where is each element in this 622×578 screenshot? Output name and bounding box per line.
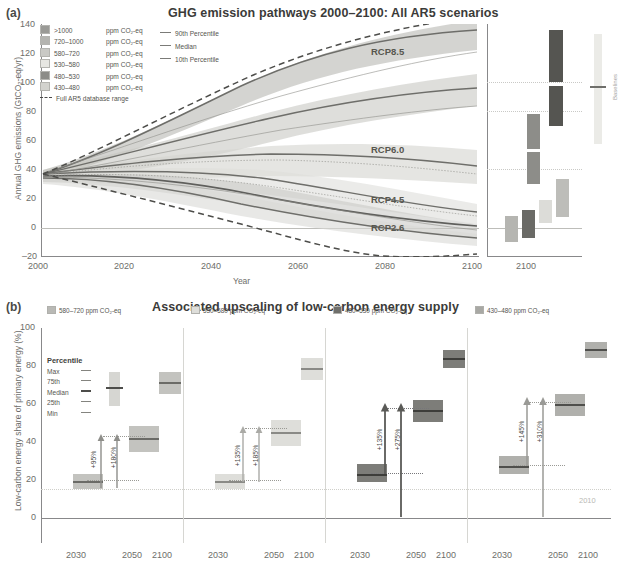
panel-b: (b) Associated upscaling of low-carbon e… [0,296,622,578]
x-tick: 2050 [264,550,284,560]
y-tick: 80 [26,106,36,116]
percentile-legend-title: Percentile [47,356,139,365]
y-tick: 140 [20,19,35,29]
inset-bar-720-1000-lower [527,152,540,184]
rcp-label-4-5: RCP4.5 [371,194,404,205]
swatch-icon [40,36,50,45]
y-tick: 80 [26,360,36,370]
legend-item: 75th [47,378,139,388]
subpanel-label-text: 530–580 ppm CO₂-eq [203,307,265,314]
baselines-median-marker [590,86,606,88]
x-tick: 2100 [436,550,456,560]
panel-b-tag: (b) [6,300,21,314]
legend-label: 25th [47,399,81,406]
y-tick: 40 [26,164,36,174]
legend-item: Median [47,389,139,399]
subpanel-label-text: 580–720 ppm CO₂-eq [59,307,121,314]
legend-item: 10th Percentile [160,56,280,69]
x-tick: 2030 [66,550,86,560]
panel-a-2100-inset: 2100 [487,24,582,257]
legend-percentile-label: Median [175,43,197,50]
legend-percentile-label: 10th Percentile [175,56,219,63]
pct-2050-4: +310% [536,421,543,442]
rcp-label-8-5: RCP8.5 [371,46,404,57]
x-tick: 2030 [208,550,228,560]
x-tick: 2050 [406,550,426,560]
y-tick: –20 [22,251,37,261]
legend-item: Median [160,43,280,56]
rcp-label-2-6: RCP2.6 [371,222,404,233]
x-tick: 2060 [288,261,308,271]
panel-b-percentile-legend: Percentile Max 75th Median 25th Min [47,356,139,430]
panel-a-percentile-legend: 90th Percentile Median 10th Percentile [160,30,280,80]
baselines-bar [594,34,602,144]
legend-range: 530–580 [54,61,106,68]
line-icon [160,45,171,46]
line-icon [160,32,171,33]
legend-unit: ppm CO₂-eq [106,50,143,57]
x-tick: 2040 [201,261,221,271]
panel-a-x-axis-label: Year [233,276,250,286]
rcp-label-6-0: RCP6.0 [371,144,404,155]
legend-unit: ppm CO₂-eq [106,27,143,34]
baseline-2010-label: 2010 [579,496,596,505]
swatch-icon [40,48,50,57]
line-icon [81,412,91,413]
x-tick: 2080 [375,261,395,271]
y-tick: 20 [26,193,36,203]
inset-bar-720-1000 [527,114,540,149]
swatch-icon [191,306,200,314]
swatch-icon [40,71,50,80]
x-tick: 2030 [350,550,370,560]
legend-database-label: Full AR5 database range [56,95,129,102]
panel-a-title: GHG emission pathways 2000–2100: All AR5… [168,6,499,20]
swatch-icon [333,306,342,314]
y-tick: 0 [31,222,36,232]
legend-label: Min [47,410,81,417]
bar-2100-median [585,349,607,351]
y-tick: 100 [20,322,35,332]
legend-range: 480–530 [54,73,106,80]
y-tick: 40 [26,436,36,446]
subpanel-label-530-580: 530–580 ppm CO₂-eq [191,306,265,314]
inset-y-axis [487,24,488,257]
swatch-icon [40,82,50,91]
line-icon [81,370,91,371]
x-tick: 2050 [548,550,568,560]
legend-item: Max [47,368,139,378]
legend-range: >1000 [54,27,106,34]
swatch-icon [475,306,484,314]
legend-range: 430–480 [54,84,106,91]
legend-range: 580–720 [54,50,106,57]
line-icon [81,380,91,381]
panel-a: (a) GHG emission pathways 2000–2100: All… [0,0,622,292]
pct-2030-4: +145% [518,421,525,442]
x-tick: 2100 [294,550,314,560]
line-icon [81,401,91,402]
increase-arrows-4 [521,392,561,520]
legend-unit: ppm CO₂-eq [106,38,143,45]
y-tick: 0 [31,512,36,522]
subpanel-label-text: 480–530 ppm CO₂-eq [345,307,407,314]
swatch-icon [40,25,50,34]
legend-median-marker [106,387,123,389]
pct-2030-2: +135% [234,445,241,466]
legend-label: Median [47,389,81,396]
x-tick: 2100 [578,550,598,560]
line-icon [160,58,171,59]
swatch-icon [40,59,50,68]
x-tick: 2030 [492,550,512,560]
legend-item: 90th Percentile [160,30,280,43]
x-tick: 2000 [28,261,48,271]
legend-range-box [109,372,120,406]
pct-2030-1: +95% [90,451,97,469]
legend-range: 720–1000 [54,38,106,45]
x-tick: 2100 [462,261,482,271]
panel-a-tag: (a) [6,6,21,20]
inset-bar-530-580 [539,200,552,223]
y-tick: 60 [26,398,36,408]
dashed-line-icon [40,97,52,98]
legend-percentile-label: 90th Percentile [175,30,219,37]
y-tick: 120 [20,48,35,58]
panel-b-y-axis [41,328,42,543]
